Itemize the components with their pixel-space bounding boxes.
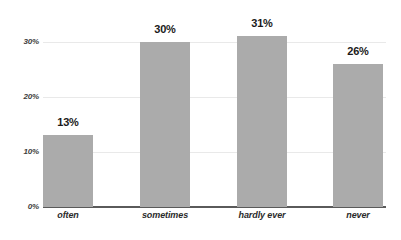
value-label-hardly-ever: 31% — [237, 18, 287, 29]
value-label-often: 13% — [43, 117, 93, 128]
bar-often[interactable] — [43, 135, 93, 207]
x-axis: often sometimes hardly ever never — [0, 211, 401, 233]
value-label-never: 26% — [333, 46, 383, 57]
x-tick-label-sometimes: sometimes — [130, 211, 200, 220]
value-label-sometimes: 30% — [140, 24, 190, 35]
x-tick-label-never: never — [333, 211, 383, 220]
bar-sometimes[interactable] — [140, 42, 190, 207]
bars-layer — [0, 0, 401, 207]
x-tick-label-often: often — [43, 211, 93, 220]
bar-chart: 30% 20% 10% 0% 13% 30% 31% 26% often som… — [0, 0, 401, 240]
x-tick-label-hardly-ever: hardly ever — [227, 211, 297, 220]
bar-hardly-ever[interactable] — [237, 36, 287, 207]
bar-never[interactable] — [333, 64, 383, 207]
